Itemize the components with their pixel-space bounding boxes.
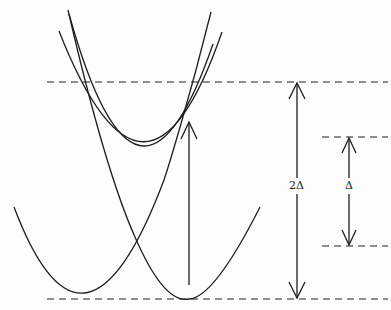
- diagram-canvas: 2Δ Δ: [0, 0, 391, 310]
- lower-left-parabola: [14, 12, 211, 293]
- diagram-svg: [0, 0, 391, 310]
- upper-parabola-b: [59, 31, 222, 142]
- delta-label: Δ: [344, 180, 354, 192]
- lower-right-parabola: [68, 10, 260, 299]
- two-delta-label: 2Δ: [288, 180, 305, 192]
